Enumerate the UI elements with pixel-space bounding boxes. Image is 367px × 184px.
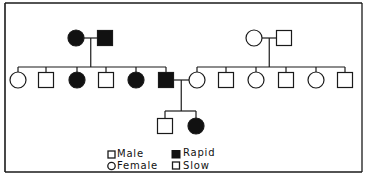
- gen2-individual-2-male-square-icon: [39, 73, 54, 88]
- gen1-couple2-father-male-square-icon: [277, 31, 292, 46]
- legend-slow-label: Slow: [183, 160, 210, 172]
- gen2-individual-4-male-square-icon: [99, 73, 114, 88]
- gen2-individual-3-female-circle-icon: [69, 72, 85, 88]
- gen2-individual-8-male-square-icon: [219, 73, 234, 88]
- gen2-individual-7-female-circle-icon: [189, 72, 205, 88]
- gen1-couple1-mother-female-circle-icon: [68, 30, 84, 46]
- gen2-individual-5-female-circle-icon: [128, 72, 144, 88]
- gen2-individual-9-female-circle-icon: [248, 72, 264, 88]
- gen2-individual-10-male-square-icon: [279, 73, 294, 88]
- pedigree-lines: [18, 38, 345, 119]
- gen3-individual-1-male-square-icon: [158, 119, 173, 134]
- legend-male-square-icon: [108, 151, 115, 158]
- gen2-individual-12-male-square-icon: [338, 73, 353, 88]
- legend-slow-empty-icon: [173, 162, 180, 169]
- legend-rapid-label: Rapid: [183, 147, 215, 159]
- legend-male-label: Male: [117, 148, 144, 160]
- legend-rapid-filled-icon: [172, 151, 180, 159]
- gen2-individual-1-female-circle-icon: [10, 72, 26, 88]
- legend-female-circle-icon: [108, 162, 115, 169]
- gen2-individual-6-male-square-icon: [159, 73, 174, 88]
- gen1-couple2-mother-female-circle-icon: [246, 30, 262, 46]
- gen3-individual-2-female-circle-icon: [188, 118, 204, 134]
- legend-female-label: Female: [117, 160, 158, 172]
- gen2-individual-11-female-circle-icon: [308, 72, 324, 88]
- gen1-couple1-father-male-square-icon: [98, 31, 113, 46]
